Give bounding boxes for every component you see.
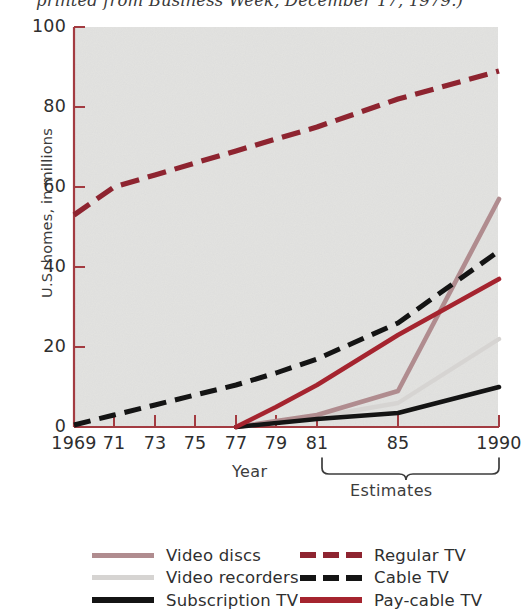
estimates-brace [322, 458, 499, 480]
legend-label-cable-tv: Cable TV [374, 568, 449, 587]
x-tick-label-77: 77 [216, 433, 256, 453]
legend-item-video-recorders: Video recorders [92, 567, 299, 590]
x-tick-label-75: 75 [175, 433, 215, 453]
legend-swatch-pay-cable-tv [300, 597, 362, 603]
legend-swatch-video-discs [92, 553, 154, 558]
legend-label-video-recorders: Video recorders [166, 568, 299, 587]
legend-swatch-regular-tv [300, 552, 362, 558]
y-tick-label-40: 40 [8, 256, 66, 276]
chart-figure: 100 80 60 40 20 0 1969 71 73 75 77 79 81… [0, 0, 522, 616]
x-tick-label-1990: 1990 [471, 433, 522, 453]
legend-item-video-discs: Video discs [92, 544, 299, 567]
legend-item-pay-cable-tv: Pay-cable TV [300, 589, 482, 612]
legend-column-left: Video discs Video recorders Subscription… [92, 544, 299, 612]
legend-label-subscription-tv: Subscription TV [166, 591, 298, 610]
x-tick-label-85: 85 [378, 433, 418, 453]
chart-canvas [0, 0, 522, 616]
y-tick-label-100: 100 [8, 16, 66, 36]
estimates-annotation-label: Estimates [350, 481, 433, 500]
legend-column-right: Regular TV Cable TV Pay-cable TV [300, 544, 482, 612]
x-axis-title: Year [232, 462, 267, 481]
legend-swatch-cable-tv [300, 575, 362, 581]
legend-item-subscription-tv: Subscription TV [92, 589, 299, 612]
y-tick-label-80: 80 [8, 96, 66, 116]
chart-legend: Video discs Video recorders Subscription… [92, 544, 522, 614]
legend-label-pay-cable-tv: Pay-cable TV [374, 591, 482, 610]
x-tick-label-71: 71 [94, 433, 134, 453]
legend-item-regular-tv: Regular TV [300, 544, 482, 567]
legend-label-regular-tv: Regular TV [374, 546, 466, 565]
x-tick-label-81: 81 [297, 433, 337, 453]
legend-item-cable-tv: Cable TV [300, 567, 482, 590]
x-tick-label-73: 73 [135, 433, 175, 453]
legend-label-video-discs: Video discs [166, 546, 261, 565]
legend-swatch-subscription-tv [92, 597, 154, 603]
y-tick-label-60: 60 [8, 176, 66, 196]
legend-swatch-video-recorders [92, 575, 154, 580]
y-tick-label-20: 20 [8, 336, 66, 356]
y-axis-title: U.S. homes, in millions [39, 103, 55, 323]
x-tick-label-79: 79 [256, 433, 296, 453]
